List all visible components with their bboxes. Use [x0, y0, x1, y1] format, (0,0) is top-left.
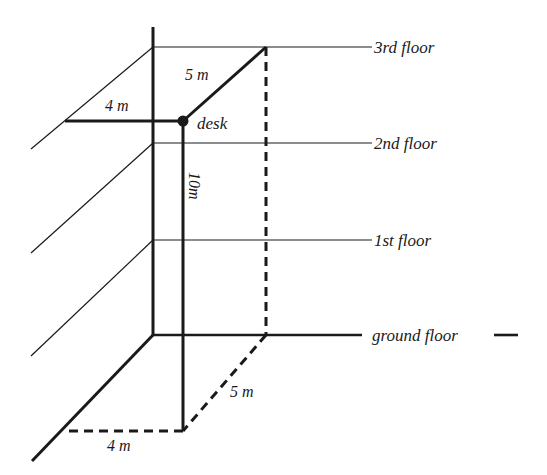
- ground-base-diagonal: [32, 335, 153, 461]
- label-ground-floor: ground floor: [372, 326, 458, 345]
- label-third-floor: 3rd floor: [373, 38, 435, 57]
- label-top-horizontal: 4 m: [105, 97, 129, 114]
- label-vertical: 10m: [186, 172, 203, 200]
- desk-point-marker: [178, 116, 189, 127]
- floor-diagonal-third: [31, 47, 153, 149]
- label-bottom-diagonal: 5 m: [230, 383, 254, 400]
- label-first-floor: 1st floor: [374, 231, 432, 250]
- label-top-diagonal: 5 m: [185, 66, 209, 83]
- path-top-diagonal: [183, 47, 266, 121]
- label-desk: desk: [197, 114, 228, 133]
- floor-diagonal-first: [31, 240, 153, 356]
- floor-diagonal-second: [31, 143, 153, 253]
- label-bottom-horizontal: 4 m: [107, 437, 131, 454]
- label-second-floor: 2nd floor: [374, 134, 437, 153]
- building-floor-diagram: 3rd floor 2nd floor 1st floor ground flo…: [0, 0, 547, 475]
